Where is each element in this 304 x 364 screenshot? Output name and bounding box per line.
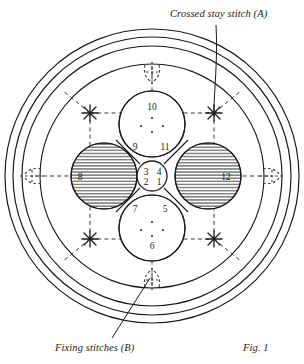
stitch-dot (140, 229, 142, 231)
annotation-crossed-stay-stitch: Crossed stay stitch (A) (170, 8, 267, 19)
center-label-1: 1 (157, 177, 162, 187)
quadrant-label-upper-right: 11 (160, 142, 169, 152)
petal-label-left: 8 (78, 172, 83, 182)
stitch-dot (140, 125, 142, 127)
crossed-star-icon (206, 231, 222, 247)
petal-label-bottom: 6 (150, 241, 155, 251)
stitch-dot (162, 229, 164, 231)
center-label-4: 4 (157, 167, 162, 177)
center-label-3: 3 (144, 167, 149, 177)
annotation-fixing-stitches: Fixing stitches (B) (55, 342, 134, 353)
figure-caption: Fig. 1 (243, 342, 269, 353)
center-circle (137, 161, 167, 191)
center-label-2: 2 (144, 177, 149, 187)
quadrant-label-lower-left: 7 (133, 204, 138, 214)
stitch-dot (151, 235, 153, 237)
petal-label-top: 10 (147, 102, 157, 112)
leader-fixing-stitches (112, 278, 150, 338)
stitch-dot (162, 125, 164, 127)
quadrant-label-lower-right: 5 (163, 204, 168, 214)
stitch-diagram: 3 4 2 1 10 6 8 12 9 11 7 5 (0, 0, 304, 364)
stitch-dot (151, 221, 153, 223)
leader-crossed-stay-stitch (214, 25, 217, 112)
quadrant-label-upper-left: 9 (133, 142, 138, 152)
stitch-dot (151, 131, 153, 133)
stitch-dot (151, 117, 153, 119)
petal-right-hatching (172, 140, 246, 214)
crossed-star-icon (82, 105, 98, 121)
petal-label-right: 12 (221, 172, 231, 182)
crossed-star-icon (82, 231, 98, 247)
